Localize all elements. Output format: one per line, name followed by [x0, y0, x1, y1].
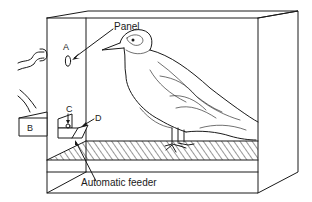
chamber-box [47, 11, 298, 193]
label-c: C [66, 104, 73, 114]
pigeon [102, 30, 258, 152]
label-feeder: Automatic feeder [81, 177, 157, 188]
skinner-box-diagram: B A Panel C D Automatic feeder [0, 0, 312, 202]
label-b: B [27, 123, 33, 133]
label-a: A [63, 42, 69, 52]
cable-lower [18, 90, 36, 112]
cable-connector [18, 49, 47, 70]
automatic-feeder: C D [58, 104, 102, 138]
label-panel: Panel [114, 21, 140, 32]
response-key-a: A [63, 42, 71, 66]
box-b: B [19, 112, 47, 136]
label-d: D [95, 113, 102, 123]
panel-callout: Panel [72, 21, 140, 60]
floor-grid [47, 141, 258, 161]
